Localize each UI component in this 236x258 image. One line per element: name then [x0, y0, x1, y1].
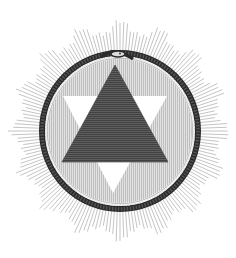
- ouroboros-hexagram-figure: [0, 0, 236, 258]
- serpent-head: [111, 51, 125, 57]
- engraving-illustration: Engraving: ouroboros serpent encircling …: [0, 0, 236, 258]
- serpent-eye-icon: [119, 53, 121, 55]
